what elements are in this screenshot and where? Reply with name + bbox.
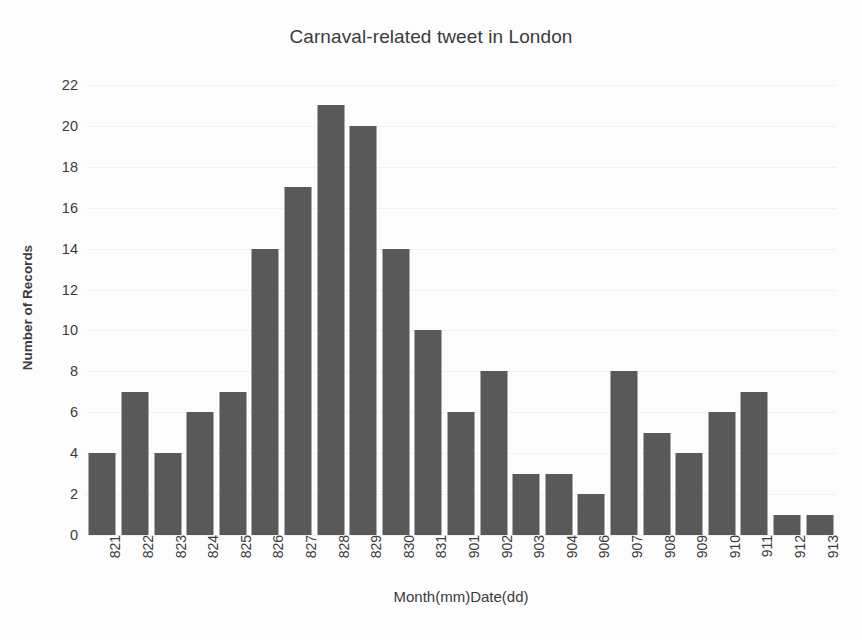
x-tick-label: 909 <box>695 535 709 581</box>
bar[interactable] <box>774 515 801 535</box>
y-axis-tick-labels: 0246810121416182022 <box>40 85 78 535</box>
bar[interactable] <box>154 453 181 535</box>
x-tick-label: 904 <box>565 535 579 581</box>
x-tick-label: 911 <box>760 535 774 581</box>
bar-slot <box>119 85 152 535</box>
bar[interactable] <box>317 105 344 535</box>
x-tick-label: 826 <box>271 535 285 581</box>
bar[interactable] <box>219 392 246 535</box>
y-axis-title: Number of Records <box>20 218 35 398</box>
x-tick-label: 821 <box>108 535 122 581</box>
bar[interactable] <box>415 330 442 535</box>
plot-area <box>86 85 836 535</box>
x-tick-label: 906 <box>597 535 611 581</box>
bar[interactable] <box>89 453 116 535</box>
bar-slot <box>445 85 478 535</box>
chart-title: Carnaval-related tweet in London <box>0 26 862 48</box>
bar[interactable] <box>741 392 768 535</box>
bar-slot <box>738 85 771 535</box>
x-tick-label: 830 <box>402 535 416 581</box>
bar-slot <box>771 85 804 535</box>
bar-slot <box>412 85 445 535</box>
y-tick-label: 0 <box>40 528 78 543</box>
x-tick-label: 913 <box>826 535 840 581</box>
y-tick-label: 4 <box>40 446 78 461</box>
bar-slot <box>379 85 412 535</box>
y-tick-label: 20 <box>40 119 78 134</box>
x-tick-label: 901 <box>467 535 481 581</box>
bar[interactable] <box>611 371 638 535</box>
bar[interactable] <box>382 249 409 535</box>
bar-slot <box>314 85 347 535</box>
bar-slot <box>151 85 184 535</box>
x-tick-label: 912 <box>793 535 807 581</box>
y-tick-label: 10 <box>40 323 78 338</box>
x-tick-label: 827 <box>304 535 318 581</box>
bar[interactable] <box>578 494 605 535</box>
bar-slot <box>803 85 836 535</box>
x-tick-label: 907 <box>630 535 644 581</box>
bar[interactable] <box>252 249 279 535</box>
bar-slot <box>640 85 673 535</box>
bar-slot <box>282 85 315 535</box>
bar-slot <box>608 85 641 535</box>
bar-slot <box>347 85 380 535</box>
bar-slot <box>477 85 510 535</box>
x-tick-label: 825 <box>239 535 253 581</box>
bar[interactable] <box>806 515 833 535</box>
bar-slot <box>184 85 217 535</box>
x-tick-label: 829 <box>369 535 383 581</box>
x-tick-label: 902 <box>500 535 514 581</box>
bar-slot <box>706 85 739 535</box>
x-tick-label: 910 <box>728 535 742 581</box>
bar[interactable] <box>643 433 670 535</box>
x-tick-label: 903 <box>532 535 546 581</box>
x-tick-label: 823 <box>174 535 188 581</box>
y-tick-label: 12 <box>40 282 78 297</box>
bar[interactable] <box>545 474 572 535</box>
x-tick-label: 824 <box>206 535 220 581</box>
bar[interactable] <box>708 412 735 535</box>
bar-slot <box>216 85 249 535</box>
bar-slot <box>543 85 576 535</box>
bar[interactable] <box>676 453 703 535</box>
bar-slot <box>510 85 543 535</box>
y-tick-label: 22 <box>40 78 78 93</box>
bar[interactable] <box>121 392 148 535</box>
y-tick-label: 2 <box>40 487 78 502</box>
bar[interactable] <box>187 412 214 535</box>
x-tick-label: 822 <box>141 535 155 581</box>
bar[interactable] <box>447 412 474 535</box>
bar-slot <box>575 85 608 535</box>
bar[interactable] <box>350 126 377 535</box>
y-tick-label: 14 <box>40 241 78 256</box>
y-tick-label: 8 <box>40 364 78 379</box>
x-tick-label: 828 <box>337 535 351 581</box>
bar-slot <box>249 85 282 535</box>
bar[interactable] <box>513 474 540 535</box>
bar-chart: Carnaval-related tweet in London Number … <box>0 0 862 640</box>
y-tick-label: 6 <box>40 405 78 420</box>
y-tick-label: 18 <box>40 160 78 175</box>
y-tick-label: 16 <box>40 200 78 215</box>
x-tick-label: 831 <box>434 535 448 581</box>
bar-slot <box>86 85 119 535</box>
x-tick-label: 908 <box>663 535 677 581</box>
bar-slot <box>673 85 706 535</box>
x-axis-tick-labels: 8218228238248258268278288298308319019029… <box>86 535 836 585</box>
bar[interactable] <box>480 371 507 535</box>
x-axis-title: Month(mm)Date(dd) <box>86 588 836 605</box>
bar[interactable] <box>284 187 311 535</box>
